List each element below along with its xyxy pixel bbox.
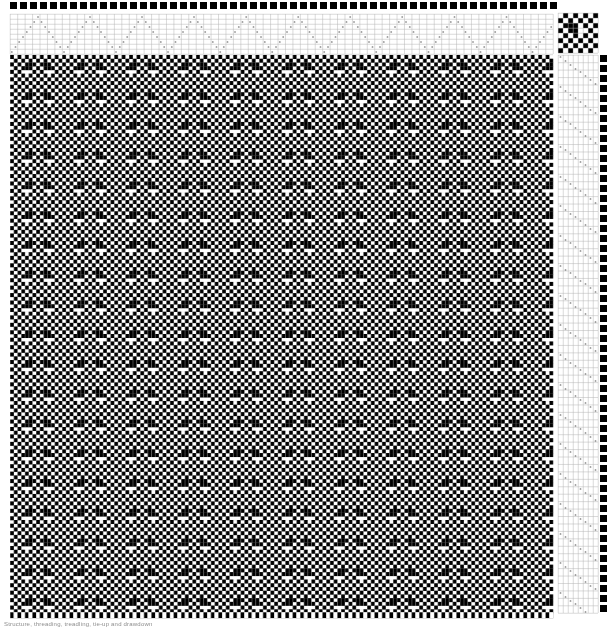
draft-caption: Structure, threading, treadling, tie-up … (4, 619, 604, 630)
tieup-grid[interactable] (558, 13, 599, 54)
weft-color-bar[interactable] (600, 55, 610, 613)
threading-grid[interactable] (10, 14, 553, 54)
weaving-draft-page: Structure, threading, treadling, tie-up … (0, 0, 611, 630)
drawdown-grid[interactable] (10, 55, 553, 613)
warp-color-bar[interactable] (10, 2, 553, 12)
treadling-grid[interactable] (558, 55, 599, 613)
